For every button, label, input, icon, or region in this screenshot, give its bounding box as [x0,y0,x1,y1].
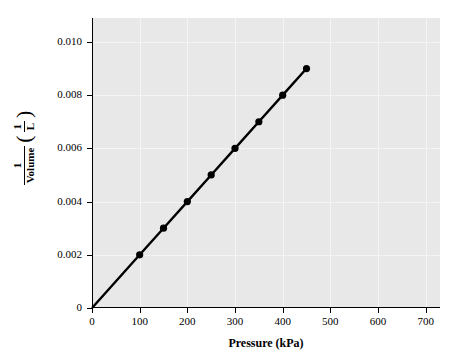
y-axis-tick [87,308,92,309]
x-tick-label: 100 [120,315,160,327]
x-tick-label: 0 [72,315,112,327]
x-axis-label: Pressure (kPa) [92,336,440,351]
y-axis-line [92,18,93,308]
y-axis-tick [87,202,92,203]
x-axis-tick [378,308,379,313]
gridline-horizontal [92,255,440,256]
x-axis-tick [330,308,331,313]
y-axis-unit-fraction: 1 L [12,121,36,132]
x-axis-line [92,307,440,308]
y-tick-label: 0.002 [28,248,82,260]
x-tick-label: 400 [263,315,303,327]
y-axis-tick [87,148,92,149]
x-axis-tick [92,308,93,313]
y-tick-label: 0.010 [28,35,82,47]
x-axis-tick [140,308,141,313]
y-axis-unit-denominator: L [25,121,37,132]
x-tick-label: 700 [406,315,446,327]
gridline-vertical [330,18,331,308]
y-axis-tick [87,42,92,43]
gridline-vertical [140,18,141,308]
gridline-vertical [235,18,236,308]
y-axis-tick [87,255,92,256]
y-axis-label-numerator: 1 [12,146,25,186]
x-tick-label: 300 [215,315,255,327]
y-tick-label: 0 [28,301,82,313]
x-tick-label: 200 [167,315,207,327]
x-axis-tick [283,308,284,313]
y-axis-tick [87,95,92,96]
chart-figure: Pressure (kPa) 1 Volume ( 1 L ) 01002003… [0,0,463,360]
gridline-horizontal [92,95,440,96]
x-tick-label: 600 [358,315,398,327]
x-axis-tick [426,308,427,313]
gridline-vertical [187,18,188,308]
gridline-vertical [426,18,427,308]
gridline-horizontal [92,42,440,43]
gridline-vertical [283,18,284,308]
y-tick-label: 0.008 [28,88,82,100]
x-axis-tick [235,308,236,313]
y-axis-unit-numerator: 1 [12,121,25,132]
y-tick-label: 0.006 [28,141,82,153]
x-tick-label: 500 [310,315,350,327]
gridline-vertical [378,18,379,308]
x-axis-tick [187,308,188,313]
gridline-horizontal [92,202,440,203]
right-paren: ) [11,111,37,118]
y-tick-label: 0.004 [28,195,82,207]
plot-area [92,18,440,308]
gridline-horizontal [92,148,440,149]
